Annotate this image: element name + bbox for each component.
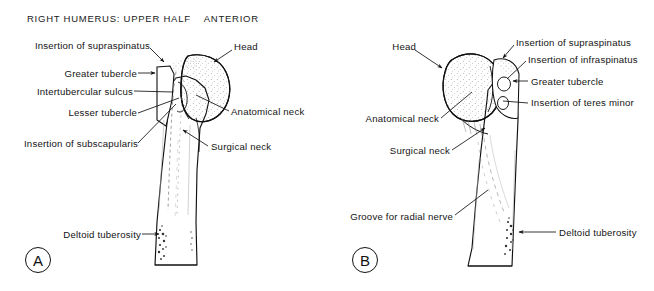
label-deltoid-tuberosity-b: Deltoid tuberosity — [559, 227, 637, 238]
label-insertion-of-supraspinatus-a: Insertion of supraspinatus — [35, 40, 150, 51]
label-anatomical-neck-b: Anatomical neck — [366, 113, 439, 124]
label-groove-for-radial-nerve-b: Groove for radial nerve — [350, 211, 453, 222]
label-intertubercular-sulcus-a: Intertubercular sulcus — [37, 86, 133, 97]
label-insertion-of-infraspinatus-b: Insertion of infraspinatus — [528, 54, 638, 65]
label-greater-tubercle-b: Greater tubercle — [531, 76, 604, 87]
label-anatomical-neck-a: Anatomical neck — [231, 106, 304, 117]
panel-a-title: RIGHT HUMERUS: UPPER HALF ANTERIOR — [27, 13, 259, 24]
label-head-b: Head — [392, 41, 416, 52]
label-lesser-tubercle-a: Lesser tubercle — [68, 107, 137, 118]
panel-letter-b: B — [352, 247, 378, 273]
label-insertion-of-supraspinatus-b: Insertion of supraspinatus — [516, 37, 631, 48]
panel-letter-a: A — [25, 247, 51, 273]
label-deltoid-tuberosity-a: Deltoid tuberosity — [63, 229, 141, 240]
label-insertion-of-subscapularis-a: Insertion of subscapularis — [24, 138, 138, 149]
label-surgical-neck-b: Surgical neck — [390, 145, 450, 156]
label-head-a: Head — [234, 41, 258, 52]
label-insertion-of-teres-minor-b: Insertion of teres minor — [531, 97, 634, 108]
figure-canvas: RIGHT HUMERUS: UPPER HALF ANTERIOR RIGHT… — [0, 0, 654, 291]
label-surgical-neck-a: Surgical neck — [211, 141, 271, 152]
label-greater-tubercle-a: Greater tubercle — [64, 68, 137, 79]
